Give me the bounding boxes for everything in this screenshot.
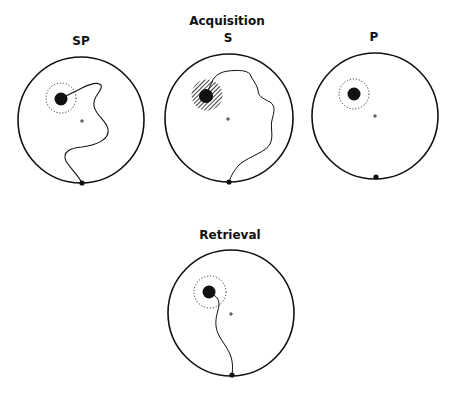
pool-center-cross bbox=[226, 117, 230, 121]
panel-p bbox=[312, 53, 438, 180]
section-title-retrieval: Retrieval bbox=[199, 228, 260, 242]
water-maze-figure: Acquisition SP S P bbox=[0, 0, 453, 395]
panel-label-p: P bbox=[370, 30, 379, 44]
platform-marker bbox=[199, 89, 213, 103]
platform-marker bbox=[55, 93, 68, 106]
start-point bbox=[229, 372, 234, 377]
pool-boundary bbox=[18, 57, 144, 183]
swim-path bbox=[64, 84, 108, 183]
pool-center-cross bbox=[229, 312, 233, 316]
panel-retrieval bbox=[168, 250, 294, 378]
swim-path bbox=[212, 294, 233, 375]
pool-center-cross bbox=[80, 119, 84, 123]
panel-s bbox=[165, 54, 293, 185]
panel-label-sp: SP bbox=[72, 34, 90, 48]
panel-sp bbox=[18, 57, 144, 186]
start-point bbox=[226, 179, 231, 184]
pool-boundary bbox=[165, 54, 293, 182]
platform-marker bbox=[203, 286, 216, 299]
start-point bbox=[373, 174, 378, 179]
platform-marker bbox=[348, 88, 361, 101]
start-point bbox=[79, 180, 84, 185]
pool-center-cross bbox=[373, 114, 377, 118]
section-title-acquisition: Acquisition bbox=[189, 14, 265, 28]
panel-label-s: S bbox=[224, 31, 233, 45]
